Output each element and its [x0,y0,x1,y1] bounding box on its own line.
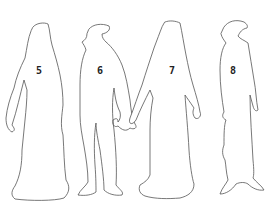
figure-canvas: 5 6 7 8 [0,0,270,203]
figure-5: 5 [6,23,69,200]
figure-6-number: 6 [97,65,103,76]
figures-illustration: 5 6 7 8 [0,0,270,203]
figure-7-outline [129,21,200,199]
figure-8: 8 [220,21,264,194]
figure-6-outline [78,24,136,195]
figure-8-number: 8 [230,65,236,76]
figure-7: 7 [129,21,200,199]
figure-5-number: 5 [36,65,42,76]
figure-7-number: 7 [169,65,175,76]
figure-8-outline [220,21,264,194]
figure-5-outline [6,23,69,200]
figure-6: 6 [78,24,136,195]
